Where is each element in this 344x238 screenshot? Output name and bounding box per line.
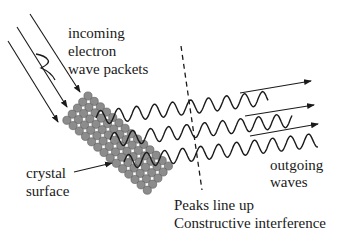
crystal-surface-pointer bbox=[74, 163, 112, 172]
outgoing-arrows bbox=[240, 81, 318, 136]
label-peaks-line1: Peaks line up bbox=[174, 198, 254, 213]
label-crystal-line2: surface bbox=[26, 184, 69, 199]
crystal-lattice bbox=[63, 92, 173, 194]
wave-packet-icon bbox=[36, 54, 55, 80]
label-peaks-line2: Constructive interference bbox=[174, 216, 326, 231]
outgoing-arrow-2-icon bbox=[245, 105, 314, 116]
electron-diffraction-diagram: incoming electron wave packets crystal s… bbox=[0, 0, 344, 238]
label-incoming-line2: electron bbox=[68, 44, 116, 59]
label-outgoing-line2: waves bbox=[270, 175, 308, 190]
label-crystal-line1: crystal bbox=[26, 166, 66, 181]
outgoing-arrow-1-icon bbox=[240, 81, 311, 93]
label-incoming-line3: wave packets bbox=[68, 62, 148, 77]
label-outgoing-line1: outgoing bbox=[270, 158, 323, 173]
peak-alignment-dashed-line bbox=[181, 46, 202, 190]
label-incoming-line1: incoming bbox=[68, 26, 125, 41]
diagram-graphics bbox=[0, 0, 344, 238]
outgoing-wave-1 bbox=[96, 92, 268, 124]
